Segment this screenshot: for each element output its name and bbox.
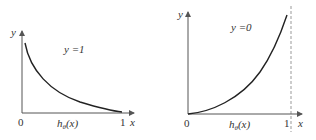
left-x-label: x [129, 116, 135, 128]
right-x-label: x [297, 117, 303, 129]
left-panel: y y =1 0 1 x hθ(x) [10, 26, 135, 131]
left-y-label: y [10, 26, 16, 38]
right-y-label: y [177, 8, 183, 20]
left-x-end-label: 1 [120, 116, 126, 128]
right-origin-label: 0 [184, 117, 190, 129]
right-x-end-label: 1 [284, 117, 290, 129]
left-origin-label: 0 [18, 116, 24, 128]
right-x-caption: hθ(x) [229, 118, 250, 132]
figure: y y =1 0 1 x hθ(x) y y =0 0 1 x hθ(x) [0, 0, 316, 140]
right-panel: y y =0 0 1 x hθ(x) [177, 6, 303, 132]
left-condition-label: y =1 [63, 43, 85, 55]
right-condition-label: y =0 [230, 21, 252, 33]
left-x-caption: hθ(x) [57, 117, 78, 131]
